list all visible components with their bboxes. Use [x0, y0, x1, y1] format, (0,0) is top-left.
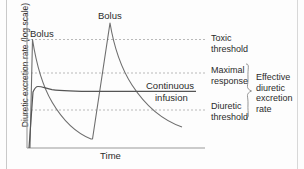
- continuous-infusion-label-line1: Continuous: [146, 80, 194, 91]
- maximal-response-label: Maximal response: [211, 65, 248, 86]
- effective-label-line2: diuretic: [256, 83, 293, 94]
- effective-label-line1: Effective: [256, 72, 293, 83]
- effective-label-line3: excretion: [256, 93, 293, 104]
- diuretic-threshold-label-line2: threshold: [211, 112, 248, 123]
- effective-excretion-rate-label: Effective diuretic excretion rate: [256, 72, 293, 114]
- toxic-threshold-label-line2: threshold: [211, 44, 248, 55]
- continuous-infusion-label-line2: infusion: [155, 92, 188, 103]
- maximal-response-label-line2: response: [211, 76, 248, 87]
- diuretic-threshold-label-line1: Diuretic: [211, 101, 248, 112]
- diuretic-threshold-label: Diuretic threshold: [211, 101, 248, 122]
- diuretic-excretion-figure: Diuretic excretion rate (log scale) Time…: [0, 0, 304, 169]
- bolus-label-2: Bolus: [98, 10, 122, 21]
- bolus-label-1: Bolus: [30, 28, 54, 39]
- maximal-response-label-line1: Maximal: [211, 65, 248, 76]
- toxic-threshold-label: Toxic threshold: [211, 33, 248, 54]
- toxic-threshold-label-line1: Toxic: [211, 33, 248, 44]
- effective-label-line4: rate: [256, 104, 293, 115]
